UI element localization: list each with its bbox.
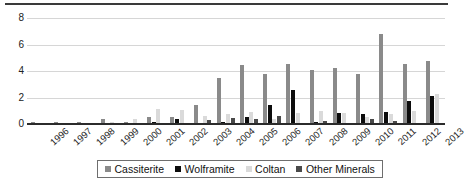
bar-cassiterite-2007 <box>286 64 290 124</box>
bar-coltan-2001 <box>156 109 160 124</box>
x-tick-label-2006: 2006 <box>281 126 303 148</box>
x-tick-label-1996: 1996 <box>48 126 70 148</box>
bar-group-2010 <box>356 18 374 124</box>
x-tick-label-1997: 1997 <box>72 126 94 148</box>
bar-cassiterite-2003 <box>194 105 198 124</box>
legend-swatch-icon <box>105 166 111 172</box>
bar-wolframite-2013 <box>430 96 434 124</box>
bar-cassiterite-2012 <box>403 64 407 124</box>
legend-swatch-icon <box>296 166 302 172</box>
y-tick-label: 2 <box>2 93 24 103</box>
bar-group-1997 <box>54 18 72 124</box>
x-tick-label-2008: 2008 <box>327 126 349 148</box>
bar-group-2004 <box>217 18 235 124</box>
bar-wolframite-2006 <box>268 105 272 124</box>
legend-item-wolframite[interactable]: Wolframite <box>175 164 234 175</box>
y-tick-label: 6 <box>2 40 24 50</box>
top-divider <box>5 3 448 5</box>
x-tick-label-2004: 2004 <box>234 126 256 148</box>
x-tick-label-2005: 2005 <box>257 126 279 148</box>
bar-group-2003 <box>194 18 212 124</box>
bar-wolframite-2007 <box>291 90 295 124</box>
legend-label: Coltan <box>255 164 285 175</box>
bar-group-2011 <box>379 18 397 124</box>
bar-cassiterite-2013 <box>426 61 430 124</box>
legend-label: Wolframite <box>185 164 235 175</box>
bar-coltan-2008 <box>319 111 323 124</box>
bar-group-2008 <box>310 18 328 124</box>
bar-coltan-2012 <box>412 111 416 124</box>
bar-group-2000 <box>124 18 142 124</box>
bar-group-2006 <box>263 18 281 124</box>
x-tick-label-2010: 2010 <box>374 126 396 148</box>
bar-cassiterite-2009 <box>333 68 337 124</box>
bar-coltan-2013 <box>435 94 439 124</box>
x-tick-label-2012: 2012 <box>420 126 442 148</box>
y-tick-label: 0 <box>2 119 24 129</box>
y-tick-label: 8 <box>2 13 24 23</box>
bar-group-1999 <box>101 18 119 124</box>
x-tick-label-2002: 2002 <box>188 126 210 148</box>
bar-group-2012 <box>403 18 421 124</box>
y-axis-labels: 02468 <box>0 18 24 124</box>
bar-group-2007 <box>286 18 304 124</box>
bar-cassiterite-2005 <box>240 65 244 124</box>
legend-label: Cassiterite <box>115 164 165 175</box>
bar-cassiterite-2004 <box>217 78 221 124</box>
bar-cassiterite-2006 <box>263 74 267 124</box>
legend-item-other-minerals[interactable]: Other Minerals <box>296 164 374 175</box>
bar-group-2005 <box>240 18 258 124</box>
y-tick-label: 4 <box>2 66 24 76</box>
x-tick-label-2011: 2011 <box>397 126 419 147</box>
bar-coltan-2002 <box>180 110 184 124</box>
x-axis-labels: 1996199719981999200020012002200320042005… <box>27 124 445 158</box>
legend-item-coltan[interactable]: Coltan <box>246 164 286 175</box>
plot-area <box>27 18 445 124</box>
x-tick-label-1998: 1998 <box>95 126 117 148</box>
bar-group-1996 <box>31 18 49 124</box>
chart-legend: CassiteriteWolframiteColtanOther Mineral… <box>97 160 383 178</box>
x-tick-label-2009: 2009 <box>350 126 372 148</box>
x-tick-label-2001: 2001 <box>165 126 187 148</box>
bar-group-2009 <box>333 18 351 124</box>
x-tick-label-2007: 2007 <box>304 126 326 148</box>
bar-group-1998 <box>77 18 95 124</box>
bar-wolframite-2012 <box>407 101 411 124</box>
bar-group-2002 <box>170 18 188 124</box>
legend-swatch-icon <box>175 166 181 172</box>
x-tick-label-2003: 2003 <box>211 126 233 148</box>
bar-cassiterite-2010 <box>356 74 360 124</box>
bar-group-2001 <box>147 18 165 124</box>
legend-label: Other Minerals <box>306 164 375 175</box>
x-tick-label-2013: 2013 <box>443 126 465 148</box>
bar-cassiterite-2011 <box>379 34 383 124</box>
bar-group-2013 <box>426 18 444 124</box>
x-tick-label-1999: 1999 <box>118 126 140 148</box>
x-tick-label-2000: 2000 <box>141 126 163 148</box>
bar-cassiterite-2008 <box>310 70 314 124</box>
legend-swatch-icon <box>246 166 252 172</box>
legend-item-cassiterite[interactable]: Cassiterite <box>105 164 164 175</box>
